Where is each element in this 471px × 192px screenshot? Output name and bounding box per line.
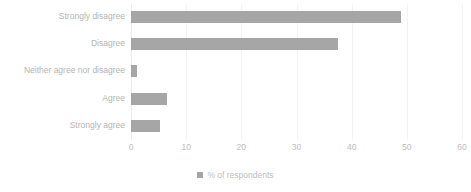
legend-label: % of respondents [207, 170, 273, 180]
category-label: Strongly agree [70, 118, 125, 132]
category-label: Strongly disagree [59, 9, 125, 23]
x-axis: 0102030405060 [131, 142, 462, 156]
bar [131, 93, 167, 105]
bar-row: Strongly agree [131, 113, 462, 140]
bar-row: Agree [131, 86, 462, 113]
x-tick-label: 30 [292, 142, 301, 152]
x-tick-label: 20 [237, 142, 246, 152]
category-label: Disagree [91, 36, 125, 50]
bar-row: Strongly disagree [131, 4, 462, 31]
bar-row: Neither agree nor disagree [131, 58, 462, 85]
bar [131, 65, 137, 77]
x-tick-label: 40 [347, 142, 356, 152]
category-label: Neither agree nor disagree [24, 63, 125, 77]
legend-square-icon [197, 172, 203, 178]
x-tick-label: 10 [181, 142, 190, 152]
x-tick-label: 0 [129, 142, 134, 152]
bar-chart: Strongly disagreeDisagreeNeither agree n… [0, 0, 471, 192]
category-label: Agree [102, 91, 125, 105]
bar [131, 120, 160, 132]
bar [131, 38, 338, 50]
bar [131, 11, 401, 23]
chart-legend: % of respondents [0, 170, 471, 180]
gridline-60 [462, 4, 463, 140]
bar-row: Disagree [131, 31, 462, 58]
x-tick-label: 60 [457, 142, 466, 152]
plot-area: Strongly disagreeDisagreeNeither agree n… [131, 4, 462, 140]
x-tick-label: 50 [402, 142, 411, 152]
